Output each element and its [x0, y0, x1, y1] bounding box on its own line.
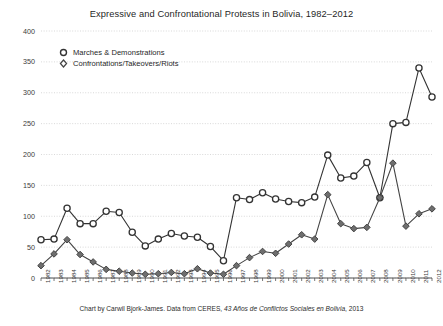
- x-tick-label: 1985: [83, 269, 90, 283]
- chart-caption: Chart by Carwil Bjork-James. Data from C…: [0, 305, 443, 312]
- circle-marker-icon: [58, 47, 69, 58]
- x-tick-label: 1993: [187, 269, 194, 283]
- caption-prefix: Chart by Carwil Bjork-James. Data from C…: [80, 305, 224, 312]
- chart-container: Expressive and Confrontational Protests …: [0, 0, 443, 326]
- x-tick-label: 2010: [409, 269, 416, 283]
- y-tick-label: 300: [9, 88, 35, 97]
- x-tick-label: 2003: [317, 269, 324, 283]
- x-tick-label: 2001: [291, 269, 298, 283]
- legend-label-confrontations: Confrontations/Takeovers/Riots: [73, 58, 179, 69]
- y-tick-label: 100: [9, 212, 35, 221]
- x-tick-label: 1995: [213, 269, 220, 283]
- x-tick-label: 1988: [122, 269, 129, 283]
- x-tick-label: 2012: [435, 269, 442, 283]
- x-tick-label: 1997: [239, 269, 246, 283]
- caption-source-title: 43 Años de Conflictos Sociales en Bolivi…: [224, 305, 345, 312]
- x-tick-label: 2008: [382, 269, 389, 283]
- x-tick-label: 1992: [174, 269, 181, 283]
- x-tick-label: 2005: [343, 269, 350, 283]
- diamond-marker-icon: [58, 58, 69, 69]
- x-tick-label: 1984: [70, 269, 77, 283]
- data-series-layer: [38, 65, 436, 278]
- y-tick-label: 200: [9, 150, 35, 159]
- y-tick-label: 250: [9, 119, 35, 128]
- chart-legend: Marches & Demonstrations Confrontations/…: [58, 47, 179, 69]
- series-confrontations: [38, 160, 436, 278]
- y-tick-label: 350: [9, 57, 35, 66]
- x-tick-label: 1987: [109, 269, 116, 283]
- y-tick-label: 0: [9, 274, 35, 283]
- x-tick-label: 1983: [57, 269, 64, 283]
- x-tick-label: 2011: [422, 270, 429, 283]
- legend-label-marches: Marches & Demonstrations: [73, 47, 165, 58]
- x-tick-label: 2000: [278, 269, 285, 283]
- x-tick-label: 1999: [265, 269, 272, 283]
- y-tick-label: 400: [9, 27, 35, 36]
- x-tick-label: 1998: [252, 269, 259, 283]
- legend-item-confrontations: Confrontations/Takeovers/Riots: [58, 58, 179, 69]
- x-tick-label: 1986: [96, 269, 103, 283]
- x-tick-label: 1994: [200, 269, 207, 283]
- x-tick-label: 2009: [396, 269, 403, 283]
- caption-suffix: , 2013: [345, 305, 363, 312]
- series-marches: [38, 65, 435, 264]
- x-tick-label: 1989: [135, 269, 142, 283]
- y-tick-label: 50: [9, 243, 35, 252]
- x-tick-label: 1990: [148, 269, 155, 283]
- legend-item-marches: Marches & Demonstrations: [58, 47, 179, 58]
- y-tick-label: 150: [9, 181, 35, 190]
- x-tick-label: 2007: [369, 269, 376, 283]
- x-tick-label: 2002: [304, 269, 311, 283]
- x-tick-label: 2004: [330, 269, 337, 283]
- x-tick-label: 1991: [161, 269, 168, 283]
- x-tick-label: 1996: [226, 269, 233, 283]
- x-tick-label: 1982: [44, 269, 51, 283]
- x-tick-label: 2006: [356, 269, 363, 283]
